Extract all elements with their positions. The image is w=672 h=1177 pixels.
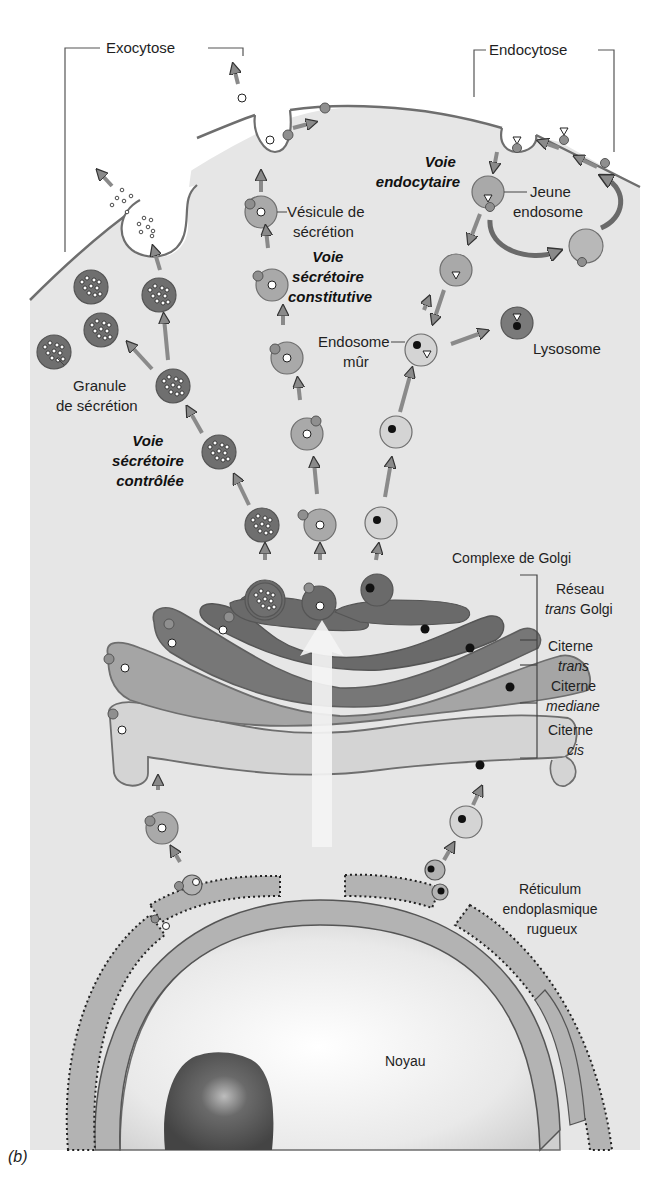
secretion-granule-1: [74, 270, 108, 304]
label-exocytose: Exocytose: [106, 39, 175, 56]
intracellular-trafficking-diagram: Exocytose Endocytose Jeune endosome Voie…: [0, 0, 672, 1177]
secretory-vesicle-3: [270, 342, 303, 374]
endosome-intermediate: [440, 254, 472, 286]
secretion-granule-7: [245, 508, 279, 542]
exocytosis-release-arrow: [100, 173, 112, 186]
label-lysosome: Lysosome: [533, 340, 601, 357]
lysosomal-vesicle-2: [365, 507, 397, 539]
label-noyau: Noyau: [385, 1053, 425, 1069]
label-complexe-golgi: Complexe de Golgi: [452, 550, 571, 566]
secretion-granule-6: [202, 435, 236, 469]
panel-label: (b): [8, 1148, 28, 1166]
label-endocytose: Endocytose: [489, 41, 567, 58]
secretion-granule-3: [84, 313, 118, 347]
er-golgi-vesicle-left: [145, 812, 178, 844]
secretion-granule-5: [156, 369, 190, 403]
lysosome: [501, 307, 533, 339]
er-golgi-vesicle-right: [450, 806, 482, 838]
lysosomal-vesicle-1: [380, 416, 412, 448]
secretion-granule-4: [37, 335, 71, 369]
secreted-molecule: [238, 94, 246, 102]
secretion-granule-2: [142, 278, 176, 312]
